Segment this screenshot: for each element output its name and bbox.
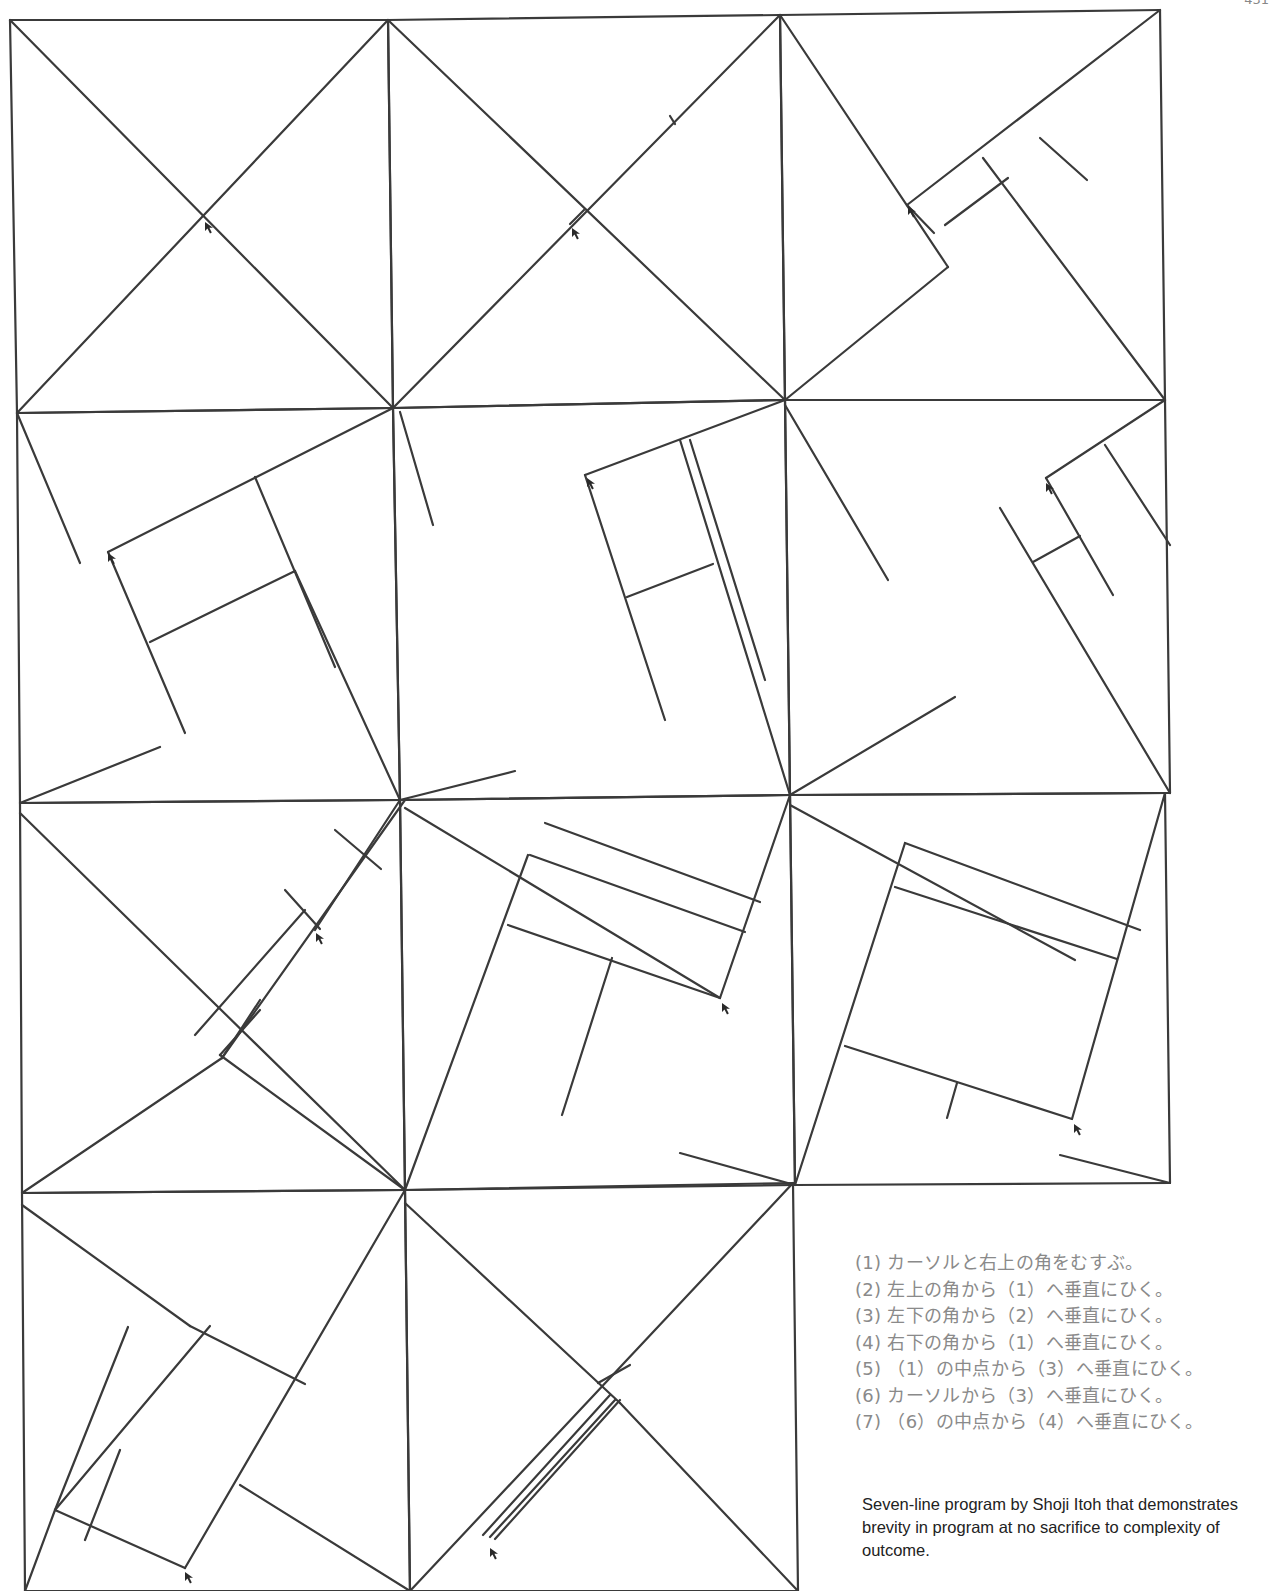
drawn-line <box>1060 1155 1170 1183</box>
cursor-arrow-icon <box>1074 1124 1082 1136</box>
drawn-line <box>20 813 405 1190</box>
frame-9 <box>790 793 1170 1185</box>
drawn-line <box>55 1326 210 1510</box>
drawn-line <box>795 843 905 1185</box>
drawn-line <box>220 1010 260 1055</box>
drawn-line <box>785 405 888 580</box>
frame-border <box>793 1183 798 1591</box>
drawn-line <box>895 887 1117 959</box>
drawn-line <box>1105 445 1170 545</box>
frame-6 <box>785 400 1170 795</box>
cursor-arrow-icon <box>490 1548 498 1560</box>
drawn-line <box>627 564 713 597</box>
frame-border <box>780 10 1160 15</box>
drawn-line <box>690 440 765 680</box>
frame-border <box>393 400 785 408</box>
drawn-line <box>190 1326 305 1384</box>
drawn-line <box>22 1205 190 1326</box>
drawn-line <box>907 10 1160 205</box>
drawn-line <box>410 1183 793 1591</box>
drawn-line <box>983 158 1165 400</box>
drawn-line <box>20 747 160 803</box>
drawn-line <box>25 1510 55 1591</box>
frame-border <box>405 1190 410 1591</box>
drawn-line <box>108 552 185 733</box>
drawn-line <box>17 20 388 413</box>
frame-border <box>10 20 17 413</box>
step-2: (2) 左上の角から（1）へ垂直にひく。 <box>855 1277 1275 1304</box>
frame-3 <box>780 10 1165 400</box>
drawn-line <box>680 440 790 795</box>
frame-border <box>22 1193 25 1591</box>
drawn-line <box>295 571 400 800</box>
drawn-line <box>17 413 80 563</box>
drawn-line <box>947 1083 957 1118</box>
drawn-line <box>222 1000 260 1058</box>
drawn-line <box>845 1046 1072 1119</box>
step-3: (3) 左下の角から（2）へ垂直にひく。 <box>855 1303 1275 1330</box>
drawn-line <box>400 771 515 800</box>
frame-8 <box>400 795 795 1190</box>
drawn-line <box>785 267 948 400</box>
frame-1 <box>10 20 393 413</box>
drawn-line <box>405 855 528 1190</box>
drawn-line <box>150 571 295 642</box>
figure-caption: Seven-line program by Shoji Itoh that de… <box>862 1493 1262 1562</box>
drawn-line <box>240 1485 410 1591</box>
frame-border <box>785 400 790 795</box>
drawn-line <box>483 1395 610 1535</box>
drawn-line <box>405 808 720 998</box>
drawn-line <box>108 408 393 552</box>
drawn-line <box>1046 400 1165 478</box>
drawn-line <box>393 15 780 408</box>
drawn-line <box>780 15 948 267</box>
frame-border <box>790 793 1165 795</box>
drawn-line <box>10 20 393 408</box>
drawn-line <box>85 1450 120 1540</box>
frame-border <box>790 795 795 1185</box>
drawn-line <box>720 795 790 998</box>
drawn-line <box>400 412 433 525</box>
drawn-line <box>22 1058 222 1193</box>
step-6: (6) カーソルから（3）へ垂直にひく。 <box>855 1383 1275 1410</box>
drawn-line <box>55 1510 185 1568</box>
frame-border <box>20 803 22 1193</box>
frame-border <box>20 800 400 803</box>
drawn-line <box>220 1055 405 1190</box>
frame-border <box>388 15 780 20</box>
frame-border <box>388 20 393 408</box>
drawn-line <box>1033 536 1080 562</box>
cursor-arrow-icon <box>316 933 324 945</box>
frame-2 <box>388 15 785 408</box>
drawn-line <box>405 1203 620 1403</box>
drawn-line <box>1000 508 1170 793</box>
drawn-line <box>490 1400 615 1537</box>
drawn-line <box>285 890 320 929</box>
drawn-line <box>585 475 665 720</box>
drawn-line <box>1040 138 1087 180</box>
drawn-line <box>945 178 1008 225</box>
drawn-line <box>585 400 785 475</box>
drawn-line <box>680 1153 795 1185</box>
drawn-line <box>185 1190 405 1568</box>
drawn-line <box>508 925 720 998</box>
frame-5 <box>393 400 790 800</box>
step-7: (7) （6）の中点から（4）へ垂直にひく。 <box>855 1409 1275 1436</box>
step-5: (5) （1）の中点から（3）へ垂直にひく。 <box>855 1356 1275 1383</box>
instruction-steps: (1) カーソルと右上の角をむすぶ。 (2) 左上の角から（1）へ垂直にひく。 … <box>855 1250 1275 1436</box>
drawn-line <box>620 1403 798 1591</box>
frame-4 <box>17 408 400 803</box>
drawn-line <box>530 855 745 932</box>
frame-border <box>795 1183 1170 1185</box>
frame-border <box>17 408 393 413</box>
frame-border <box>1165 793 1170 1183</box>
drawn-line <box>315 800 400 930</box>
frame-border <box>400 795 790 800</box>
drawn-line <box>1072 793 1165 1119</box>
drawn-line <box>545 823 760 902</box>
drawn-line <box>598 1365 630 1383</box>
frame-11 <box>405 1183 798 1591</box>
cursor-arrow-icon <box>572 228 580 240</box>
frame-border <box>400 800 405 1190</box>
frame-border <box>22 1190 405 1193</box>
